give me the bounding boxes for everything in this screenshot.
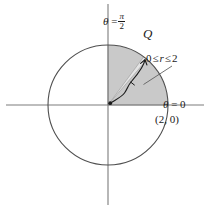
- r-range-left-relation: ≤: [152, 52, 160, 64]
- polar-region-figure: θ =π2 Q 0≤r≤2 θ = 0 (2, 0): [0, 0, 210, 209]
- r-range-right-relation: ≤: [164, 52, 172, 64]
- origin-dot: [108, 101, 112, 105]
- theta-zero-equals: = 0: [168, 98, 185, 110]
- label-r-range-inequality: 0≤r≤2: [146, 53, 177, 64]
- fraction-numerator-pi: π: [118, 12, 125, 21]
- r-range-lower-bound: 0: [146, 52, 152, 64]
- label-region-q: Q: [143, 27, 152, 40]
- label-theta-equals-pi-over-two: θ =π2: [103, 12, 125, 31]
- theta-equals-sign: =: [108, 15, 117, 27]
- r-range-upper-bound: 2: [172, 52, 178, 64]
- label-theta-equals-zero: θ = 0: [163, 99, 186, 110]
- fraction-denominator-two: 2: [118, 21, 125, 31]
- pi-over-two-fraction: π2: [118, 12, 125, 31]
- label-point-two-comma-zero: (2, 0): [155, 114, 179, 125]
